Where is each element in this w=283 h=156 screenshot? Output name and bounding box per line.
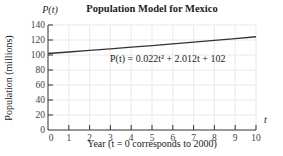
chart-title: Population Model for Mexico — [86, 3, 217, 14]
x-tick-label: 0 — [49, 133, 54, 143]
x-tick-label: 1 — [66, 133, 71, 143]
x-axis-label: Year (t = 0 corresponds to 2000) — [87, 138, 217, 150]
y-tick-label: 40 — [36, 95, 46, 105]
population-chart: 020406080100120140 012345678910 Populati… — [0, 0, 283, 156]
equation-label: P(t) = 0.022t² + 2.012t + 102 — [110, 53, 225, 65]
y-tick-label: 120 — [31, 35, 46, 45]
y-tick-label: 100 — [31, 50, 46, 60]
x-tick-label: 10 — [251, 133, 261, 143]
y-tick-label: 60 — [36, 80, 46, 90]
y-tick-label: 20 — [36, 110, 46, 120]
y-tick-label: 80 — [36, 65, 46, 75]
y-axis-ticks: 020406080100120140 — [31, 20, 53, 135]
grid-lines — [48, 25, 256, 130]
y-axis-label: Population (millions) — [3, 35, 15, 120]
y-tick-label: 0 — [40, 125, 45, 135]
y-tick-label: 140 — [31, 20, 46, 30]
y-axis-variable: P(t) — [41, 4, 58, 16]
x-tick-label: 9 — [233, 133, 238, 143]
x-axis-variable: t — [264, 114, 267, 125]
